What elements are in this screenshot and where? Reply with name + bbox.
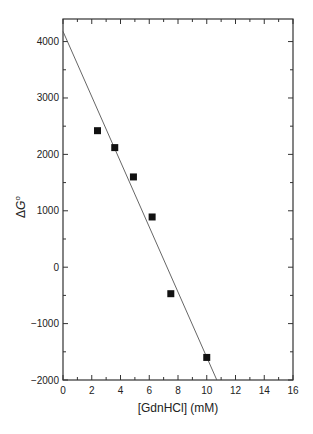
x-tick-label: 16 bbox=[287, 385, 299, 396]
x-tick-label: 0 bbox=[60, 385, 66, 396]
chart: 0246810121416 −2000−10000100020003000400… bbox=[0, 0, 313, 434]
y-tick-label: 3000 bbox=[37, 92, 60, 103]
x-tick-label: 8 bbox=[175, 385, 181, 396]
x-tick-label: 14 bbox=[259, 385, 271, 396]
y-axis-title: ΔGo bbox=[13, 196, 28, 218]
data-point-square bbox=[130, 173, 137, 180]
plot-frame bbox=[63, 19, 293, 380]
x-axis: 0246810121416 bbox=[60, 19, 299, 396]
x-tick-label: 6 bbox=[146, 385, 152, 396]
data-point-square bbox=[167, 290, 174, 297]
data-point-square bbox=[94, 127, 101, 134]
figure-caption-cutoff bbox=[0, 428, 313, 434]
y-axis-title-var: G bbox=[14, 201, 28, 210]
data-point-square bbox=[111, 144, 118, 151]
y-tick-label: 0 bbox=[53, 262, 59, 273]
y-axis: −2000−100001000200030004000 bbox=[31, 36, 293, 385]
data-point-square bbox=[149, 213, 156, 220]
y-axis-title-sup: o bbox=[13, 196, 22, 201]
fit-line bbox=[63, 31, 217, 380]
x-tick-label: 12 bbox=[230, 385, 242, 396]
y-axis-title-delta: Δ bbox=[14, 210, 28, 218]
x-axis-title: [GdnHCl] (mM) bbox=[138, 401, 219, 415]
y-tick-label: 2000 bbox=[37, 149, 60, 160]
y-tick-label: −2000 bbox=[31, 375, 60, 386]
x-tick-label: 10 bbox=[201, 385, 213, 396]
y-tick-label: 1000 bbox=[37, 205, 60, 216]
y-tick-label: 4000 bbox=[37, 36, 60, 47]
y-tick-label: −1000 bbox=[31, 318, 60, 329]
x-tick-label: 4 bbox=[118, 385, 124, 396]
data-point-square bbox=[203, 354, 210, 361]
x-tick-label: 2 bbox=[89, 385, 95, 396]
